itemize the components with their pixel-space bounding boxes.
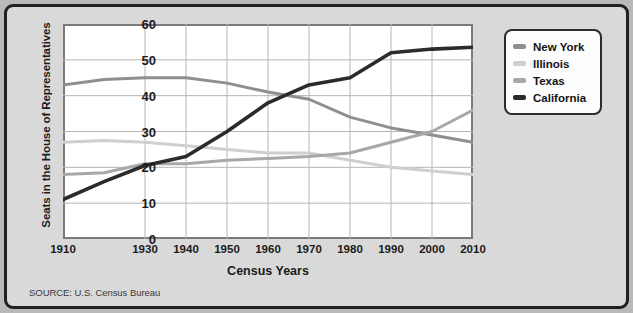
source-note: SOURCE: U.S. Census Bureau bbox=[29, 287, 160, 298]
y-axis-title: Seats in the House of Representatives bbox=[40, 4, 52, 250]
x-tick-label: 2010 bbox=[449, 243, 497, 255]
y-tick-label: 10 bbox=[116, 196, 156, 211]
legend-label: Texas bbox=[533, 75, 565, 87]
chart-panel: Seats in the House of Representatives 01… bbox=[4, 4, 629, 309]
y-tick-label: 50 bbox=[116, 52, 156, 67]
legend-swatch-icon bbox=[513, 78, 526, 83]
legend-item-new-york[interactable]: New York bbox=[513, 38, 594, 55]
y-tick-label: 30 bbox=[116, 124, 156, 139]
y-tick-label: 20 bbox=[116, 160, 156, 175]
legend-item-california[interactable]: California bbox=[513, 89, 594, 106]
y-tick-label: 40 bbox=[116, 88, 156, 103]
y-tick-label: 60 bbox=[116, 17, 156, 32]
x-tick-label: 1910 bbox=[39, 243, 87, 255]
legend-label: New York bbox=[533, 41, 584, 53]
legend-label: Illinois bbox=[533, 58, 569, 70]
legend-swatch-icon bbox=[513, 44, 526, 49]
legend-swatch-icon bbox=[513, 61, 526, 66]
legend-item-illinois[interactable]: Illinois bbox=[513, 55, 594, 72]
legend-label: California bbox=[533, 92, 586, 104]
legend-swatch-icon bbox=[513, 95, 526, 100]
legend-item-texas[interactable]: Texas bbox=[513, 72, 594, 89]
legend: New YorkIllinoisTexasCalifornia bbox=[504, 29, 602, 115]
x-axis-title: Census Years bbox=[63, 264, 473, 278]
